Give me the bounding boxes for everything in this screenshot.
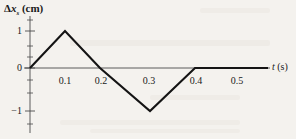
y-axis-label: Δxs (cm): [4, 3, 43, 17]
y-axis-label-delta: Δ: [4, 2, 11, 14]
y-tick-label: 1: [8, 26, 22, 36]
x-axis-label: t (s): [272, 62, 288, 72]
data-series-line: [30, 31, 268, 111]
x-tick-label: 0.4: [182, 76, 210, 86]
x-axis-label-unit: (s): [275, 61, 288, 72]
x-tick-label: 0.5: [223, 76, 251, 86]
y-tick-label: 0: [8, 63, 22, 73]
x-tick-label: 0.3: [135, 76, 163, 86]
y-tick-label: −1: [2, 106, 22, 116]
x-tick-label: 0.2: [87, 76, 115, 86]
x-tick-label: 0.1: [51, 76, 79, 86]
y-axis-label-unit: (cm): [19, 2, 43, 14]
chart-screenshot: Δxs (cm) t (s) 1 0 −1 0.1 0.2 0.3 0.4 0.…: [0, 0, 296, 139]
plot-area: [0, 0, 296, 139]
